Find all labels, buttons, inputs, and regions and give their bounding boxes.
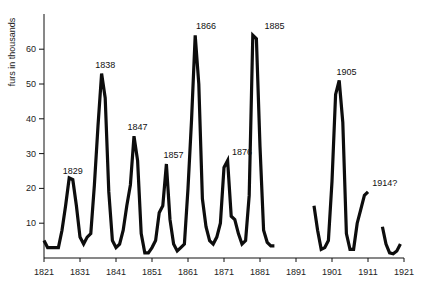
lynx-fur-chart: furs in thousands 1821183118411851186118… [0,0,421,284]
peak-annotation: 1905 [336,67,356,77]
peak-annotation: 1885 [264,21,284,31]
series-line-segment-1896-1911 [314,81,368,250]
y-tick-label: 30 [26,149,36,159]
peak-annotation: 1876 [232,147,252,157]
y-tick-label: 60 [26,44,36,54]
peak-annotation: 1829 [63,166,83,176]
peak-annotation: 1847 [128,122,148,132]
x-tick-label: 1891 [286,267,306,277]
x-tick-label: 1851 [142,267,162,277]
x-tick-label: 1821 [34,267,54,277]
x-tick-label: 1881 [250,267,270,277]
x-tick-label: 1841 [106,267,126,277]
series-line-segment-1915-1921 [382,227,400,254]
x-tick-label: 1921 [394,267,414,277]
y-axis-label: furs in thousands [7,17,17,86]
x-tick-label: 1831 [70,267,90,277]
peak-annotation: 1838 [95,60,115,70]
series-line-segment-1821-1889 [44,35,274,253]
y-tick-label: 50 [26,79,36,89]
x-tick-label: 1901 [322,267,342,277]
x-tick-label: 1911 [358,267,377,277]
y-ticks: 102030405060 [26,44,44,228]
y-tick-label: 20 [26,183,36,193]
peak-annotation: 1857 [164,150,184,160]
peak-annotations: 182918381847185718661876188519051914? [63,21,398,188]
x-tick-label: 1871 [214,267,234,277]
x-tick-label: 1861 [178,267,198,277]
y-tick-label: 10 [26,218,36,228]
peak-annotation: 1866 [196,21,216,31]
peak-annotation: 1914? [372,178,397,188]
x-ticks: 1821183118411851186118711881189119011911… [34,258,414,277]
y-tick-label: 40 [26,114,36,124]
